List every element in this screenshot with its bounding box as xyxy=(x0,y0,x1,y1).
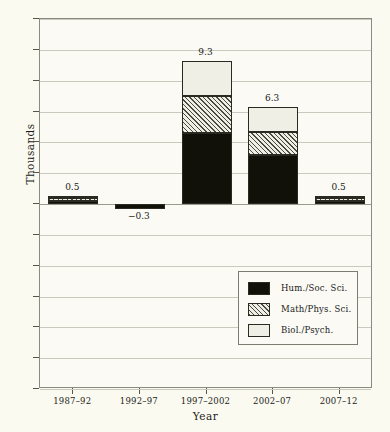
bar-segment[interactable] xyxy=(182,133,232,204)
bar-segment[interactable] xyxy=(315,201,365,204)
bar-segment[interactable] xyxy=(48,198,98,201)
legend-swatch xyxy=(248,324,270,337)
bar-segment[interactable] xyxy=(248,107,298,132)
bar-segment[interactable] xyxy=(248,132,298,155)
bar-segment[interactable] xyxy=(115,204,165,209)
bar-value-label: 9.3 xyxy=(198,47,212,57)
bar-segment[interactable] xyxy=(315,198,365,201)
y-axis-title: Thousands xyxy=(24,94,36,214)
x-axis-tick-label: 2007–12 xyxy=(320,396,358,406)
legend-swatch xyxy=(248,282,270,295)
legend-swatch xyxy=(248,303,270,316)
x-axis-tick-label: 2002–07 xyxy=(253,396,291,406)
bar-value-label: −0.3 xyxy=(128,211,150,221)
bar-segment[interactable] xyxy=(248,155,298,204)
x-axis-tick-label: 1992–97 xyxy=(120,396,158,406)
legend-label: Hum./Soc. Sci. xyxy=(281,283,347,293)
bar-segment[interactable] xyxy=(48,196,98,198)
bar-segment[interactable] xyxy=(182,61,232,96)
bar-value-label: 6.3 xyxy=(265,93,279,103)
x-axis-tick-label: 1997–2002 xyxy=(181,396,230,406)
bar[interactable] xyxy=(182,19,232,389)
legend-label: Math/Phys. Sci. xyxy=(281,304,351,314)
bar[interactable] xyxy=(115,19,165,389)
bar-segment[interactable] xyxy=(182,96,232,133)
legend: Hum./Soc. Sci.Math/Phys. Sci.Biol./Psych… xyxy=(238,271,358,345)
x-axis-tick-label: 1987–92 xyxy=(53,396,91,406)
legend-label: Biol./Psych. xyxy=(281,325,333,335)
bar-value-label: 0.5 xyxy=(65,182,79,192)
legend-item[interactable]: Biol./Psych. xyxy=(248,322,333,338)
legend-item[interactable]: Hum./Soc. Sci. xyxy=(248,280,347,296)
gridline xyxy=(40,389,371,390)
x-axis-title: Year xyxy=(39,410,372,422)
bar-segment[interactable] xyxy=(48,201,98,204)
bar[interactable] xyxy=(48,19,98,389)
bar-segment[interactable] xyxy=(315,196,365,198)
y-axis-tick-mark xyxy=(33,388,39,389)
legend-item[interactable]: Math/Phys. Sci. xyxy=(248,301,351,317)
bar-chart: Thousands 121086420−2−4−6−8−10−12 1987–9… xyxy=(0,0,390,432)
bar-value-label: 0.5 xyxy=(332,182,346,192)
